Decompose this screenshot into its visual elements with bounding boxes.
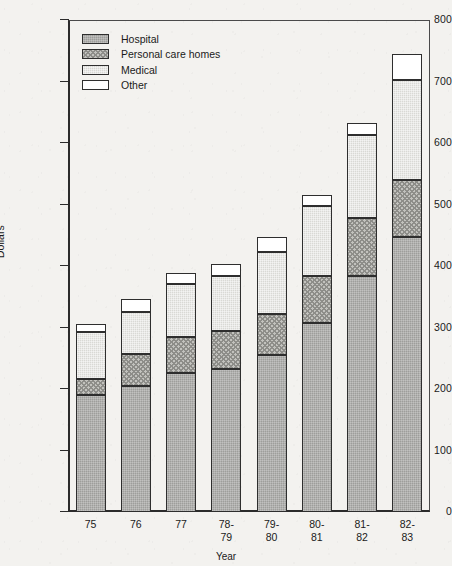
bar-76 <box>121 299 151 512</box>
bar-segment-medical <box>121 312 151 354</box>
x-axis-tick-label: 78- 79 <box>200 518 252 544</box>
bar-82-83 <box>392 54 422 512</box>
stacked-bar-chart: Dollars 0100200300400500600700800 757677… <box>0 0 452 566</box>
bar-segment-medical <box>211 276 241 331</box>
bar-segment-other <box>347 123 377 135</box>
bar-segment-hospital <box>211 369 241 512</box>
x-axis-tick-label: 82- 83 <box>381 518 433 544</box>
bar-segment-medical <box>76 332 106 379</box>
legend-item: Personal care homes <box>82 47 262 63</box>
bar-segment-personal-care-homes <box>76 379 106 396</box>
bar-segment-medical <box>302 206 332 276</box>
bar-segment-other <box>121 299 151 312</box>
legend-swatch-icon <box>82 49 109 59</box>
x-axis-tick-label: 75 <box>65 518 117 531</box>
legend-item: Other <box>82 78 262 94</box>
bar-78-79 <box>211 264 241 512</box>
bar-segment-hospital <box>347 276 377 512</box>
bar-segment-other <box>302 195 332 206</box>
bar-segment-medical <box>347 135 377 218</box>
legend-item-label: Other <box>121 79 147 91</box>
bar-80-81 <box>302 195 332 512</box>
legend-item-label: Medical <box>121 64 157 76</box>
x-axis-tick-label: 79- 80 <box>246 518 298 544</box>
x-axis-tick-label: 77 <box>155 518 207 531</box>
bar-segment-other <box>392 54 422 79</box>
legend-swatch-icon <box>82 80 109 90</box>
bar-77 <box>166 273 196 512</box>
bar-segment-personal-care-homes <box>302 276 332 323</box>
legend-item: Medical <box>82 62 262 78</box>
bar-segment-hospital <box>166 373 196 512</box>
bar-segment-hospital <box>302 323 332 512</box>
bar-75 <box>76 324 106 512</box>
legend-item: Hospital <box>82 31 262 47</box>
x-axis-title: Year <box>0 551 452 562</box>
legend-item-label: Personal care homes <box>121 48 220 60</box>
bar-segment-personal-care-homes <box>211 331 241 370</box>
bar-segment-other <box>211 264 241 276</box>
bar-segment-medical <box>392 80 422 180</box>
chart-legend: HospitalPersonal care homesMedicalOther <box>82 31 262 93</box>
bar-segment-personal-care-homes <box>257 314 287 355</box>
bar-segment-personal-care-homes <box>392 180 422 237</box>
x-axis-tick-label: 76 <box>110 518 162 531</box>
legend-swatch-icon <box>82 65 109 75</box>
bar-segment-medical <box>166 284 196 337</box>
bar-segment-other <box>166 273 196 284</box>
bar-segment-medical <box>257 252 287 314</box>
x-axis-tick-label: 80- 81 <box>291 518 343 544</box>
bar-81-82 <box>347 123 377 512</box>
y-axis-title: Dollars <box>0 225 6 258</box>
x-axis-tick-label: 81- 82 <box>336 518 388 544</box>
bar-segment-hospital <box>121 386 151 512</box>
bar-79-80 <box>257 237 287 512</box>
bar-segment-other <box>76 324 106 332</box>
bar-segment-personal-care-homes <box>121 354 151 386</box>
bar-segment-other <box>257 237 287 252</box>
bar-segment-personal-care-homes <box>166 337 196 373</box>
bar-segment-personal-care-homes <box>347 218 377 276</box>
legend-item-label: Hospital <box>121 33 159 45</box>
legend-swatch-icon <box>82 34 109 44</box>
bar-segment-hospital <box>392 237 422 512</box>
bar-segment-hospital <box>257 355 287 512</box>
bar-segment-hospital <box>76 395 106 512</box>
